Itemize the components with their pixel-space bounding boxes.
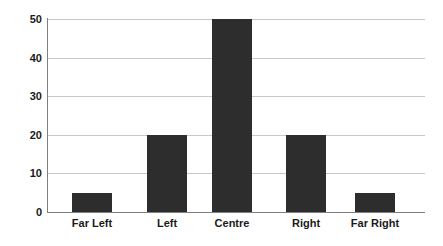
bar-far-right bbox=[355, 193, 395, 212]
bar-far-left bbox=[72, 193, 112, 212]
y-tick-label-40: 40 bbox=[2, 53, 42, 64]
x-axis-tick-labels: Far Left Left Centre Right Far Right bbox=[48, 216, 425, 236]
y-tick-label-50: 50 bbox=[2, 14, 42, 25]
y-axis-line bbox=[47, 18, 48, 213]
bar-chart: 50 40 30 20 10 0 Far Left Left Centre Ri… bbox=[0, 0, 443, 246]
bar-left bbox=[147, 135, 187, 212]
y-tick-label-0: 0 bbox=[2, 207, 42, 218]
x-axis-line bbox=[47, 212, 425, 213]
x-tick-label-far-left: Far Left bbox=[52, 216, 132, 231]
x-tick-label-centre: Centre bbox=[192, 216, 272, 231]
bar-right bbox=[286, 135, 326, 212]
x-tick-label-right: Right bbox=[266, 216, 346, 231]
y-axis-tick-labels: 50 40 30 20 10 0 bbox=[0, 0, 42, 246]
plot-area bbox=[48, 19, 425, 212]
y-tick-label-20: 20 bbox=[2, 130, 42, 141]
bar-centre bbox=[212, 19, 252, 212]
y-tick-label-10: 10 bbox=[2, 168, 42, 179]
y-tick-label-30: 30 bbox=[2, 91, 42, 102]
x-tick-label-far-right: Far Right bbox=[335, 216, 415, 231]
